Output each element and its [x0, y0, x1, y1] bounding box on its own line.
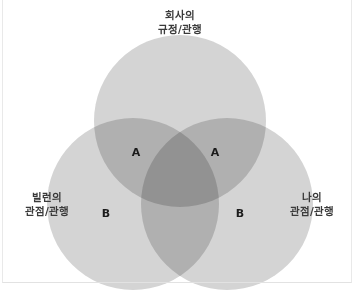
region-label-a-left: A [132, 146, 141, 159]
set-label-villain-line-2: 관점/관행 [25, 204, 69, 218]
venn-circle-set [47, 35, 313, 290]
circle-mine [141, 118, 313, 290]
region-label-a-right: A [211, 146, 220, 159]
set-label-villain: 빌런의 관점/관행 [25, 190, 69, 218]
set-label-villain-line-1: 빌런의 [25, 190, 69, 204]
venn-circles-group [0, 0, 354, 303]
region-label-b-left: B [102, 207, 111, 220]
set-label-mine-line-2: 관점/관행 [290, 204, 334, 218]
set-label-mine-line-1: 나의 [290, 190, 334, 204]
set-label-company: 회사의 규정/관행 [158, 8, 202, 36]
set-label-company-line-1: 회사의 [158, 8, 202, 22]
set-label-mine: 나의 관점/관행 [290, 190, 334, 218]
venn-diagram-figure: 회사의 규정/관행 빌런의 관점/관행 나의 관점/관행 A A B B [0, 0, 354, 303]
region-label-b-right: B [236, 207, 245, 220]
set-label-company-line-2: 규정/관행 [158, 22, 202, 36]
